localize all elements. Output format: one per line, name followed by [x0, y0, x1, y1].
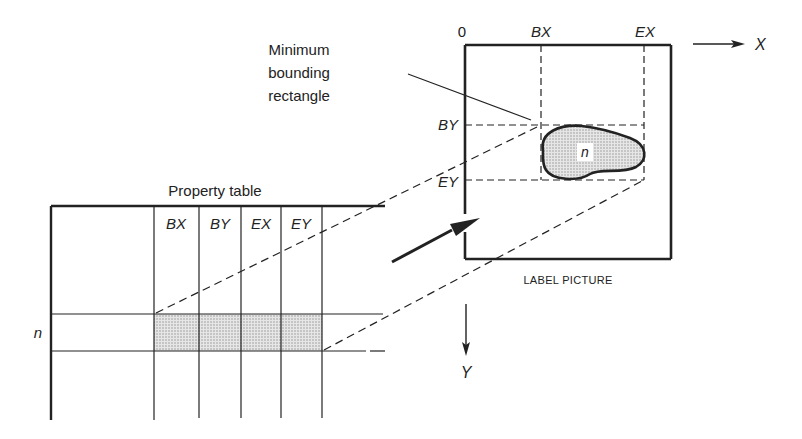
- bx-axis-label: BX: [531, 23, 552, 40]
- annotation-line-3: rectangle: [268, 87, 330, 104]
- y-axis-arrow-icon: [462, 304, 470, 356]
- region-label: n: [581, 144, 589, 160]
- annotation-line-1: Minimum: [269, 41, 330, 58]
- row-n-shading: [154, 314, 322, 351]
- annotation-line-2: bounding: [268, 64, 330, 81]
- by-axis-label: BY: [438, 116, 459, 133]
- ex-axis-label: EX: [635, 23, 656, 40]
- label-picture-caption: LABEL PICTURE: [523, 274, 612, 286]
- ey-axis-label: EY: [438, 173, 459, 190]
- x-axis-arrow-icon: [693, 40, 745, 48]
- column-header-by: BY: [210, 215, 231, 232]
- origin-label: 0: [458, 23, 466, 40]
- label-picture-diagram: n 0 BX EX BY EY X Y LABEL PICTURE Minimu…: [0, 0, 802, 439]
- x-axis-label: X: [754, 36, 767, 53]
- column-header-ex: EX: [251, 215, 272, 232]
- column-header-bx: BX: [166, 215, 187, 232]
- mapping-arrow-icon: [392, 218, 480, 262]
- property-table-title: Property table: [168, 182, 261, 199]
- row-label-n: n: [34, 324, 42, 341]
- annotation-leader-line: [408, 74, 531, 120]
- y-axis-label: Y: [461, 364, 473, 381]
- column-header-ey: EY: [291, 215, 312, 232]
- mbr-annotation: Minimum bounding rectangle: [268, 41, 531, 120]
- property-table: [51, 206, 385, 420]
- region-n-shape: [543, 126, 645, 179]
